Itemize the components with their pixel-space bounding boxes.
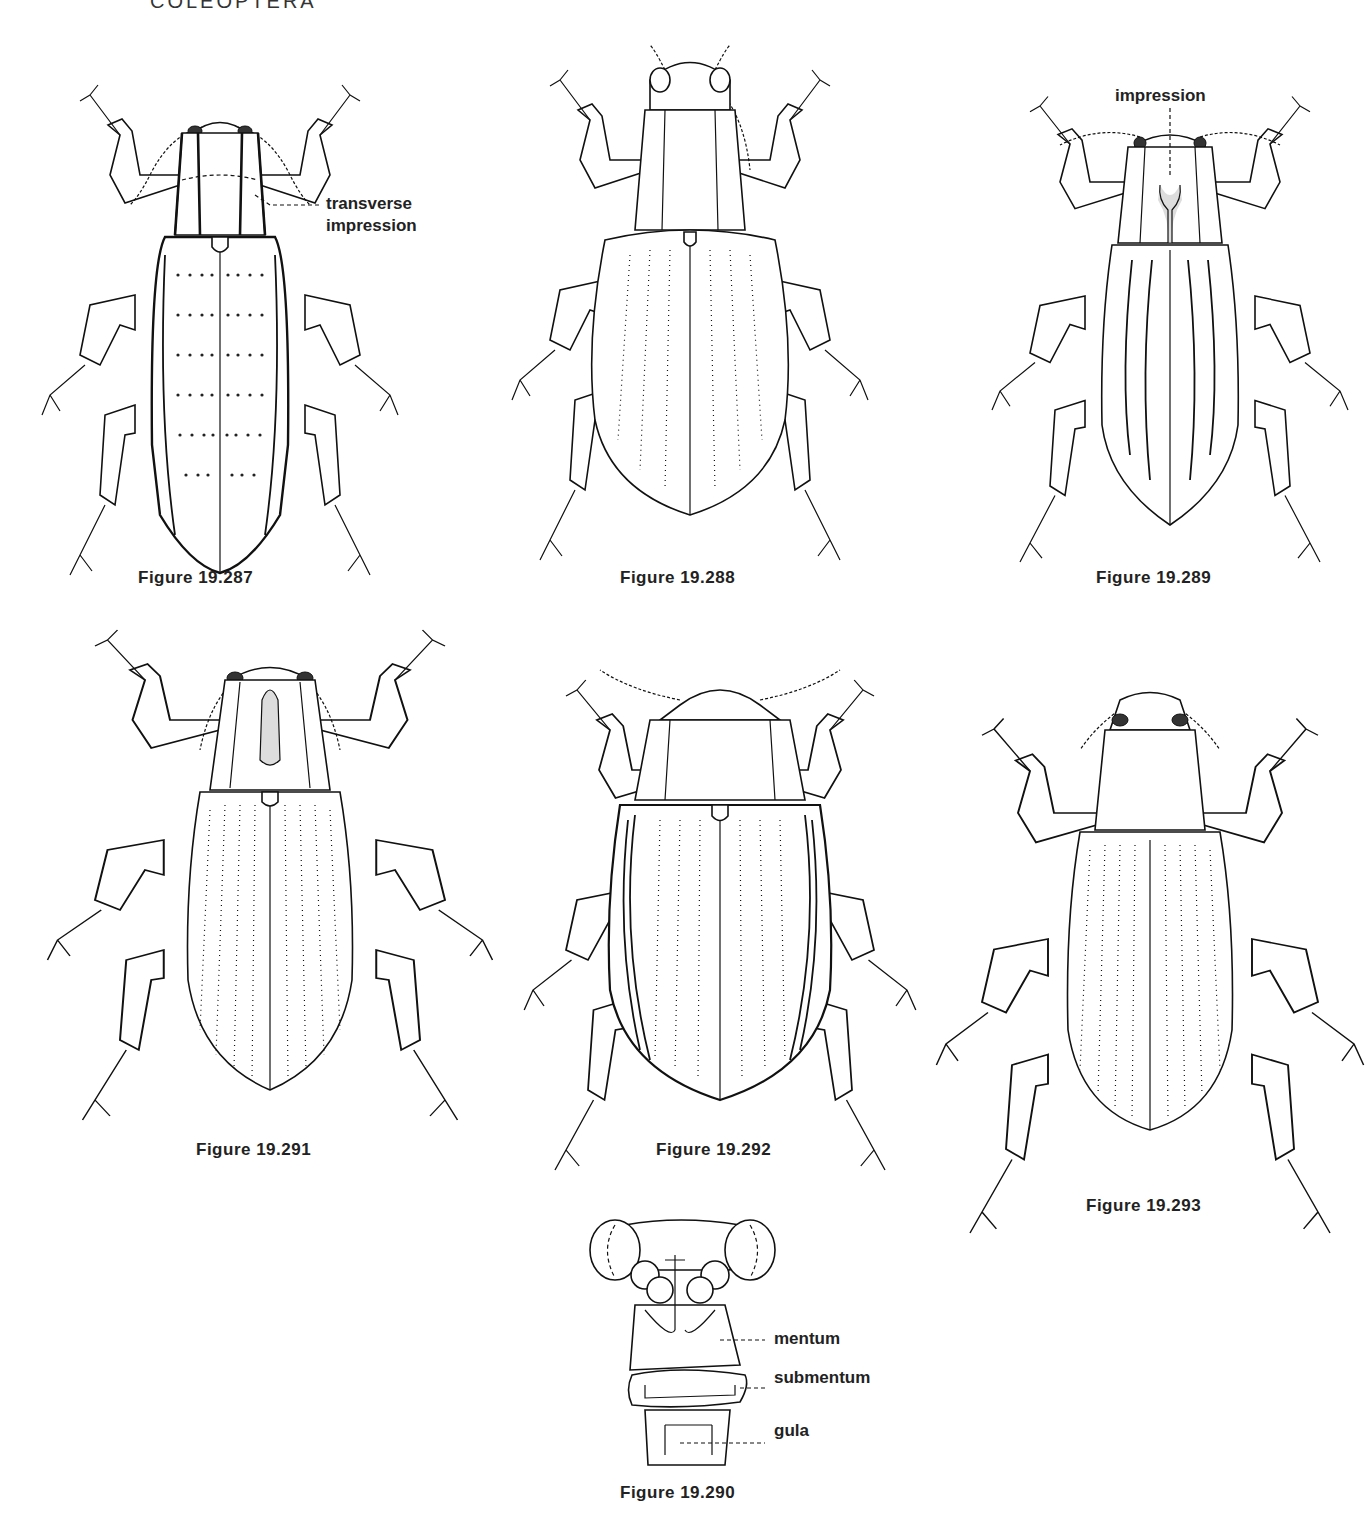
- beetle-illustration-icon: [530, 40, 850, 550]
- beetle-illustration-icon: [970, 630, 1330, 1190]
- beetle-illustration-icon: [40, 630, 500, 1110]
- figure-19-290: [580, 1210, 780, 1480]
- figure-19-287: [60, 60, 380, 560]
- figure-19-293: [970, 630, 1330, 1190]
- label-gula: gula: [774, 1420, 809, 1442]
- figure-19-291: [40, 630, 500, 1110]
- caption-19-292: Figure 19.292: [656, 1140, 771, 1160]
- figure-19-292: [540, 640, 900, 1120]
- caption-19-293: Figure 19.293: [1086, 1196, 1201, 1216]
- label-mentum: mentum: [774, 1328, 840, 1350]
- caption-19-289: Figure 19.289: [1096, 568, 1211, 588]
- figure-19-289: [1000, 80, 1330, 560]
- beetle-illustration-icon: [1000, 80, 1330, 560]
- caption-19-287: Figure 19.287: [138, 568, 253, 588]
- beetle-illustration-icon: [60, 60, 380, 560]
- beetle-illustration-icon: [540, 640, 900, 1120]
- figure-19-288: [530, 40, 850, 550]
- caption-19-288: Figure 19.288: [620, 568, 735, 588]
- label-impression: impression: [1115, 85, 1206, 107]
- label-transverse-impression: transverse impression: [326, 193, 417, 237]
- caption-19-291: Figure 19.291: [196, 1140, 311, 1160]
- running-head: COLEOPTERA: [150, 0, 317, 13]
- label-submentum: submentum: [774, 1367, 870, 1389]
- caption-19-290: Figure 19.290: [620, 1483, 735, 1503]
